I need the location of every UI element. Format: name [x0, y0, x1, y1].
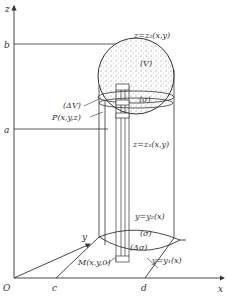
tick-b: b [4, 40, 10, 50]
sigma-slice-label: (σ) [139, 95, 151, 104]
curve-y2-label: y=y₂(x) [134, 212, 165, 221]
region-V-solid [98, 38, 174, 114]
curve-y1-label: y=y₁(x) [151, 256, 182, 265]
region-V-label: (V) [140, 59, 152, 68]
x-axis-label: x [218, 284, 223, 294]
y-axis-label: y [81, 232, 88, 242]
point-M-label: M(x,y,0) [77, 258, 111, 267]
sigma-label: (σ) [140, 229, 152, 238]
volume-element-label: (ΔV) [63, 101, 81, 110]
lower-surface-label: z=z₁(x,y) [132, 140, 169, 149]
area-element-label: (Δσ) [130, 243, 147, 252]
tick-a: a [4, 125, 9, 135]
z-axis-label: z [4, 4, 10, 14]
origin-label: O [3, 283, 11, 293]
upper-surface-label: z=z₂(x,y) [133, 31, 170, 40]
diagram-canvas: z x y O b a c d z=z₂(x,y) (V) (ΔV) P(x,y… [0, 0, 228, 297]
tick-d: d [141, 283, 147, 293]
triple-integral-diagram: z x y O b a c d z=z₂(x,y) (V) (ΔV) P(x,y… [0, 0, 228, 297]
tick-c: c [52, 283, 57, 293]
point-P-label: P(x,y,z) [51, 113, 81, 122]
